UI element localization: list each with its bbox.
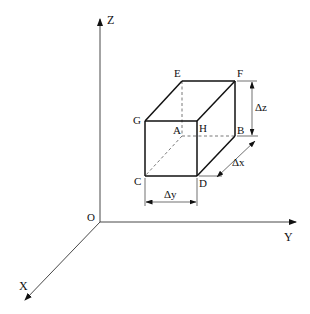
axes — [25, 19, 296, 300]
vertex-F: F — [237, 67, 243, 79]
vertex-C: C — [134, 175, 141, 187]
origin-label: O — [87, 211, 95, 223]
dx-label: Δx — [232, 156, 245, 168]
edge-GE — [145, 81, 182, 121]
y-axis-label: Y — [284, 230, 293, 244]
dy-label: Δy — [164, 188, 177, 200]
vertex-G: G — [133, 114, 141, 126]
x-axis — [25, 222, 100, 300]
diagram-svg: Z Y X O E F G H A B C D Δz Δx Δy — [0, 0, 310, 314]
vertex-A: A — [173, 124, 181, 136]
x-axis-label: X — [19, 279, 28, 293]
edge-DB — [197, 136, 235, 176]
dz-label: Δz — [255, 101, 267, 113]
z-axis-label: Z — [107, 13, 114, 27]
labels: Z Y X O E F G H A B C D Δz Δx Δy — [19, 13, 293, 293]
vertex-B: B — [237, 124, 244, 136]
edge-HF — [197, 81, 235, 121]
vertex-H: H — [199, 122, 207, 134]
vertex-E: E — [174, 67, 181, 79]
vertex-D: D — [199, 177, 207, 189]
diagram-canvas: Z Y X O E F G H A B C D Δz Δx Δy — [0, 0, 310, 314]
edge-AC — [145, 136, 182, 176]
